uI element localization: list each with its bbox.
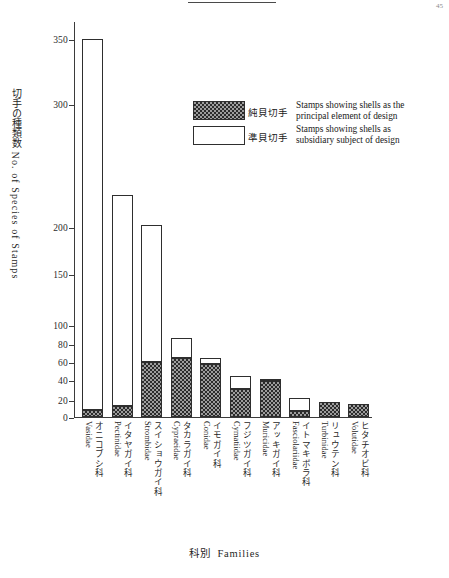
x-label-vasidae: オニコブシ科Vasidae: [77, 421, 108, 525]
x-label-scientific: Muricidae: [260, 421, 270, 525]
y-tick-label-100: 100: [53, 321, 68, 331]
x-label-jp: アッキガイ科: [270, 421, 280, 525]
y-axis-title-en: No. of Species of Stamps: [10, 152, 21, 280]
legend-item-principal: 純貝切手 Stamps showing shells as the princi…: [193, 101, 446, 121]
x-label-scientific: Pectinidae: [112, 421, 122, 525]
bar-segment-subsidiary: [230, 376, 251, 390]
x-label-scientific: Volutidae: [349, 421, 359, 525]
x-label-volutidae: ヒタチオビ科Volutidae: [343, 421, 374, 525]
bar-cypraeidae: [171, 338, 192, 417]
bar-segment-subsidiary: [141, 225, 162, 362]
bar-pectinidae: [112, 195, 133, 417]
bar-segment-principal: [200, 364, 221, 417]
y-tick-label-300: 300: [53, 100, 68, 110]
bar-muricidae: [260, 379, 281, 417]
x-label-scientific: Turbinidae: [319, 421, 329, 525]
bar-conidae: [200, 358, 221, 417]
legend-label-subsidiary-en: Stamps showing shells as subsidiary subj…: [296, 124, 446, 145]
x-label-jp: イモガイ科: [211, 421, 221, 525]
x-label-fasciolariidae: イトマキボラ科Fasciolariidae: [284, 421, 315, 525]
legend-label-principal-jp: 純貝切手: [248, 105, 288, 119]
x-label-scientific: Vasidae: [83, 421, 93, 525]
y-tick-60: [69, 363, 74, 364]
legend-label-subsidiary-en-line1: Stamps showing shells as: [296, 124, 446, 135]
y-tick-200: [69, 228, 74, 229]
bar-segment-principal: [171, 358, 192, 417]
bar-segment-principal: [319, 402, 340, 417]
x-label-jp: スイショウガイ科: [152, 421, 162, 525]
x-axis-category-labels: オニコブシ科Vasidaeイタヤガイ科Pectinidaeスイショウガイ科Str…: [75, 421, 373, 526]
bar-segment-subsidiary: [112, 195, 133, 406]
plot-area: [74, 22, 372, 418]
bar-chart-figure: 切手の種類数 No. of Species of Stamps 02040608…: [0, 0, 449, 578]
x-label-muricidae: アッキガイ科Muricidae: [255, 421, 286, 525]
legend-swatch-subsidiary-icon: [193, 126, 245, 145]
y-axis-title-jp: 切手の種類数: [10, 88, 21, 148]
x-label-scientific: Cymatiidae: [231, 421, 241, 525]
x-label-jp: イタヤガイ科: [122, 421, 132, 525]
legend-swatch-principal-icon: [193, 101, 245, 120]
x-label-strombidae: スイショウガイ科Strombidae: [136, 421, 167, 525]
y-tick-label-200: 200: [53, 223, 68, 233]
bar-segment-principal: [82, 410, 103, 417]
x-label-conidae: イモガイ科Conidae: [195, 421, 226, 525]
x-label-scientific: Fasciolariidae: [290, 421, 300, 525]
bar-series-container: [75, 22, 372, 417]
x-label-jp: ヒタチオビ科: [359, 421, 369, 525]
legend-label-subsidiary-jp: 準貝切手: [248, 130, 288, 144]
legend: 純貝切手 Stamps showing shells as the princi…: [193, 101, 445, 157]
x-label-turbinidae: リュウテン科Turbinidae: [314, 421, 345, 525]
x-label-cymatiidae: フジツガイ科Cymatiidae: [225, 421, 256, 525]
y-tick-label-60: 60: [58, 358, 68, 368]
y-tick-label-20: 20: [58, 396, 68, 406]
bar-segment-subsidiary: [171, 338, 192, 358]
y-tick-100: [69, 326, 74, 327]
y-tick-label-350: 350: [53, 35, 68, 45]
bar-segment-principal: [289, 411, 310, 417]
legend-label-principal-en: Stamps showing shells as the principal e…: [296, 100, 446, 121]
y-tick-label-80: 80: [58, 340, 68, 350]
bar-segment-subsidiary: [82, 39, 103, 410]
legend-label-subsidiary-en-line2: subsidiary subject of design: [296, 135, 446, 146]
x-label-jp: フジツガイ科: [241, 421, 251, 525]
x-axis-line: [74, 417, 372, 418]
bar-segment-principal: [141, 362, 162, 417]
y-tick-300: [69, 105, 74, 106]
x-label-jp: タカラガイ科: [181, 421, 191, 525]
y-axis-tick-labels: 020406080100150200300350: [24, 22, 68, 418]
y-tick-40: [69, 381, 74, 382]
bar-volutidae: [348, 404, 369, 417]
y-tick-0: [69, 418, 74, 419]
x-label-scientific: Cypraeidae: [171, 421, 181, 525]
y-axis-title: 切手の種類数 No. of Species of Stamps: [8, 88, 23, 279]
legend-label-principal-en-line2: principal element of design: [296, 111, 446, 122]
y-tick-150: [69, 275, 74, 276]
y-tick-label-150: 150: [53, 270, 68, 280]
x-label-cypraeidae: タカラガイ科Cypraeidae: [166, 421, 197, 525]
y-tick-label-0: 0: [63, 413, 68, 423]
x-axis-title-en: Families: [217, 548, 260, 559]
bar-segment-subsidiary: [289, 398, 310, 411]
bar-strombidae: [141, 225, 162, 417]
x-label-jp: リュウテン科: [329, 421, 339, 525]
bar-segment-principal: [112, 406, 133, 417]
x-label-jp: オニコブシ科: [93, 421, 103, 525]
legend-label-principal-en-line1: Stamps showing shells as the: [296, 100, 404, 110]
y-tick-20: [69, 401, 74, 402]
bar-cymatiidae: [230, 376, 251, 418]
x-label-scientific: Conidae: [201, 421, 211, 525]
legend-item-subsidiary: 準貝切手 Stamps showing shells as subsidiary…: [193, 126, 446, 145]
y-tick-80: [69, 345, 74, 346]
bar-fasciolariidae: [289, 398, 310, 417]
bar-turbinidae: [319, 402, 340, 417]
bar-vasidae: [82, 39, 103, 417]
x-label-pectinidae: イタヤガイ科Pectinidae: [107, 421, 138, 525]
bar-segment-principal: [230, 389, 251, 417]
x-axis-title: 科別 Families: [0, 545, 449, 560]
bar-segment-principal: [260, 381, 281, 417]
y-tick-350: [69, 40, 74, 41]
bar-segment-principal: [348, 404, 369, 417]
x-label-jp: イトマキボラ科: [300, 421, 310, 525]
y-tick-label-40: 40: [58, 376, 68, 386]
x-axis-title-jp: 科別: [189, 548, 211, 559]
